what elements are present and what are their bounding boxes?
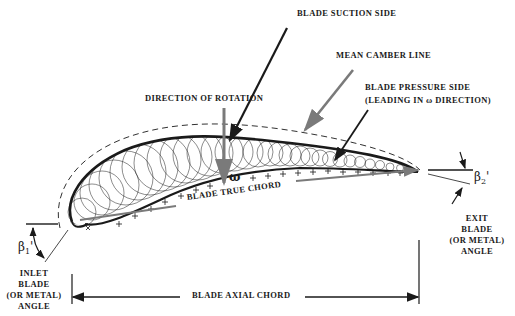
inlet-line-4: ANGLE — [2, 301, 66, 312]
blade-diagram — [0, 0, 515, 316]
exit-line-2: BLADE — [445, 224, 509, 235]
label-inlet-angle: INLET BLADE (OR METAL) ANGLE — [2, 268, 66, 312]
pressure-marks — [86, 168, 403, 230]
true-chord-left — [80, 206, 176, 220]
label-mean-camber-line: MEAN CAMBER LINE — [336, 50, 431, 61]
label-suction-side: BLADE SUCTION SIDE — [297, 8, 396, 19]
exit-line-1: EXIT — [445, 213, 509, 224]
label-axial-chord: BLADE AXIAL CHORD — [192, 290, 290, 301]
exit-angle-arrow-top — [460, 152, 465, 168]
inlet-angle-arc — [33, 228, 44, 258]
suction-surface — [70, 136, 418, 222]
label-direction-of-rotation: DIRECTION OF ROTATION — [145, 93, 263, 104]
label-pressure-side: BLADE PRESSURE SIDE — [365, 82, 470, 93]
label-exit-angle: EXIT BLADE (OR METAL) ANGLE — [445, 213, 509, 257]
suction-side-leader — [230, 28, 287, 140]
inlet-line-2: BLADE — [2, 279, 66, 290]
beta2-symbol: β2' — [474, 170, 489, 186]
exit-line-3: (OR METAL) — [445, 235, 509, 246]
inlet-line-3: (OR METAL) — [2, 290, 66, 301]
mean-camber-leader — [305, 70, 353, 130]
beta1-symbol: β1' — [18, 240, 33, 256]
exit-line-4: ANGLE — [445, 246, 509, 257]
inlet-line-1: INLET — [2, 268, 66, 279]
label-pressure-side-note: (LEADING IN ω DIRECTION) — [365, 95, 491, 106]
exit-angle-arrow-bottom — [452, 188, 462, 204]
omega-symbol: ω — [229, 170, 240, 184]
